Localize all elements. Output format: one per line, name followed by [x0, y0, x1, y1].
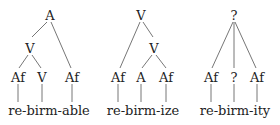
tree-3-leaf-3: Af [250, 71, 264, 84]
tree-1-root-node: A [45, 9, 54, 22]
tree-2-leaf-1: Af [111, 71, 125, 84]
tree-1-word: re-birm-able [8, 104, 90, 117]
tree-3-leaf-2: ? [231, 71, 238, 84]
tree-2-leaf-3: Af [159, 71, 173, 84]
tree-1-leaf-1: Af [11, 71, 25, 84]
tree-3-root-node: ? [231, 9, 238, 22]
tree-2-word: re-birm-ize [107, 104, 179, 117]
tree-3-leaf-1: Af [204, 71, 218, 84]
tree-1-mid-node: V [25, 42, 34, 55]
tree-3-word: re-birm-ity [200, 104, 270, 117]
tree-2-leaf-2: A [136, 71, 145, 84]
tree-1-leaf-3: Af [65, 71, 79, 84]
tree-2-mid-node: V [149, 42, 158, 55]
tree-1-leaf-2: V [37, 71, 46, 84]
tree-2-root-node: V [136, 9, 145, 22]
